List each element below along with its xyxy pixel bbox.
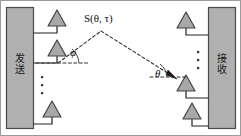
transmit-antenna-1 (48, 10, 66, 26)
receive-block-label-char2: 收 (214, 64, 230, 75)
transmit-block-label-char2: 送 (12, 64, 28, 75)
mimo-channel-diagram: S(θ, τ) φ θ 发 送 接 收 (0, 0, 241, 136)
transmit-block-label: 发 送 (12, 53, 28, 75)
path-arrowhead (166, 70, 177, 79)
scatterer-label: S(θ, τ) (84, 12, 113, 24)
receive-antenna-3 (183, 103, 201, 119)
transmit-antenna-2 (48, 40, 66, 56)
departure-angle-label: φ (70, 46, 76, 58)
path-downlink-ray (101, 31, 174, 77)
arrival-angle-label: θ (155, 67, 160, 79)
path-uplink-ray (58, 31, 101, 63)
transmit-block-label-char1: 发 (12, 53, 28, 64)
receive-antenna-ellipsis (197, 51, 199, 69)
diagram-canvas (0, 0, 241, 136)
transmit-antenna-ellipsis (41, 76, 43, 94)
figure-border (1, 1, 241, 136)
receive-antenna-1 (177, 12, 195, 28)
transmit-antenna-3 (43, 101, 61, 117)
receive-block-label-char1: 接 (214, 53, 230, 64)
receive-block-label: 接 收 (214, 53, 230, 75)
